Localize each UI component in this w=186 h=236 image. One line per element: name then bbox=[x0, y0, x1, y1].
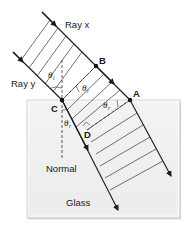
angle-arc-incident-b bbox=[76, 86, 79, 92]
svg-text:i: i bbox=[53, 75, 55, 81]
label-a: A bbox=[133, 88, 140, 99]
refraction-diagram: B A C D Ray x Ray y θ i θ i θ r θ r Norm… bbox=[0, 0, 186, 236]
label-c: C bbox=[51, 103, 58, 114]
point-c bbox=[60, 98, 64, 102]
ray-y-label: Ray y bbox=[11, 78, 36, 89]
point-b bbox=[94, 64, 98, 68]
point-a bbox=[128, 98, 132, 102]
glass-label: Glass bbox=[66, 197, 91, 208]
ray-x-label: Ray x bbox=[65, 19, 90, 30]
label-b: B bbox=[99, 55, 106, 66]
theta-i-b: θ i bbox=[82, 83, 89, 94]
normal-label: Normal bbox=[46, 163, 77, 174]
label-d: D bbox=[84, 129, 91, 140]
